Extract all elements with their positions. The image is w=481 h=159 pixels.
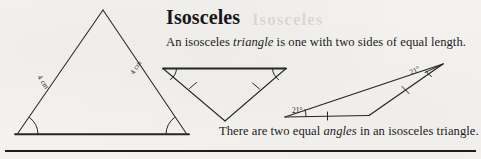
angles-emphasis: angles [324,124,357,138]
base-angle-arc-right [166,118,175,135]
inverted-isosceles-triangle [163,69,286,122]
angles-sentence: There are two equal angles in an isoscel… [219,124,479,139]
inverted-triangle-right-side [225,69,286,122]
angles-before: There are two equal [219,124,324,138]
angles-after: in an isosceles triangle. [357,124,479,138]
shallow-triangle-apex-mark [425,64,443,73]
scanned-page: Isosceles Isosceles An isosceles triangl… [0,0,481,159]
base-angle-arc-left [30,118,39,135]
horizontal-rule [5,150,476,152]
definition-emphasis: triangle [233,35,273,49]
inverted-tick-right [253,83,260,89]
bleed-through-text: Isosceles [252,10,323,30]
triangle-left-side [18,10,103,133]
shallow-triangle-short-side [369,64,443,116]
definition-after: is one with two sides of equal length. [273,35,466,49]
definition-before: An isosceles [166,35,233,49]
inverted-tick-left [190,83,197,89]
large-isosceles-triangle [15,10,189,134]
shallow-triangle-left-angle-label: 21° [292,106,302,115]
definition-sentence: An isosceles triangle is one with two si… [166,35,466,50]
page-title: Isosceles [166,6,240,29]
